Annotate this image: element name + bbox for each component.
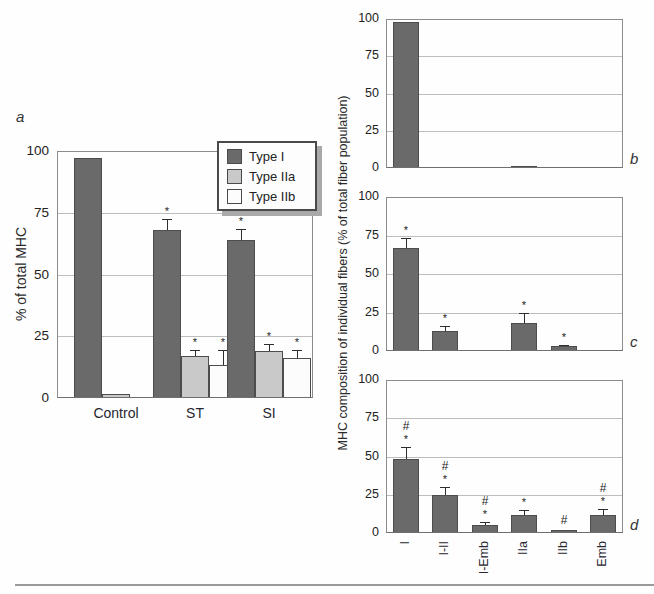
legend-item-type2a: Type IIa [227, 168, 307, 184]
x-label-d-i-ii: I-II [437, 541, 452, 556]
type2b-swatch-icon [227, 189, 242, 204]
error-bar-stem-c-iia-value [524, 313, 525, 323]
error-bar-stem-a-si-type-iib [297, 350, 298, 358]
sig-asterisk-d-emb-value: * [599, 496, 607, 507]
y-tick-label-b-100: 100 [333, 11, 379, 25]
y-tick-label-d-0: 0 [333, 525, 379, 539]
y-tick-label-b-0: 0 [333, 160, 379, 174]
bar-c-i-value [393, 248, 419, 351]
bar-d-i-ii-value [432, 495, 458, 533]
panel-letter-c: c [630, 333, 638, 350]
error-bar-stem-a-si-type-iia [269, 344, 270, 351]
bar-d-i-emb-value [472, 525, 498, 533]
error-bar-cap-a-st-type-iia [190, 350, 200, 351]
sig-hash-d-i-ii-value: # [439, 460, 451, 472]
gridline-d-75 [386, 418, 623, 419]
error-bar-cap-d-i-value [401, 447, 411, 448]
legend-label-type2b: Type IIb [249, 189, 295, 204]
error-bar-stem-d-i-value [406, 447, 407, 459]
error-bar-stem-d-i-ii-value [445, 487, 446, 495]
y-tick-label-d-50: 50 [333, 449, 379, 463]
x-label-d-emb: Emb [595, 541, 610, 567]
y-tick-label-a-50: 50 [3, 267, 49, 282]
y-tick-label-a-75: 75 [3, 205, 49, 220]
bar-c-iib-value [551, 346, 577, 351]
sig-hash-d-i-emb-value: # [479, 495, 491, 507]
bar-c-iia-value [511, 323, 537, 351]
legend: Type I Type IIa Type IIb [217, 141, 317, 211]
legend-item-type2b: Type IIb [227, 188, 307, 204]
bar-d-i-value [393, 459, 419, 533]
bar-a-control-type-i [74, 158, 102, 398]
bar-a-st-type-i [153, 230, 181, 398]
legend-item-type1: Type I [227, 148, 307, 164]
x-label-d-i: I [398, 541, 413, 544]
gridline-d-25 [386, 495, 623, 496]
sig-asterisk-d-i-value: * [402, 434, 410, 445]
y-tick-label-b-75: 75 [333, 48, 379, 62]
y-tick-label-d-75: 75 [333, 410, 379, 424]
y-tick-label-c-50: 50 [333, 266, 379, 280]
sig-asterisk-d-iia-value: * [520, 497, 528, 508]
y-tick-label-a-25: 25 [3, 328, 49, 343]
error-bar-cap-d-i-emb-value [480, 522, 490, 523]
sig-asterisk-a-si-type-iia: * [265, 331, 273, 342]
sig-hash-d-emb-value: # [597, 482, 609, 494]
y-tick-label-c-25: 25 [333, 305, 379, 319]
bottom-divider-rule [15, 584, 654, 586]
y-tick-label-d-100: 100 [333, 372, 379, 386]
bar-c-i-ii-value [432, 331, 458, 351]
y-tick-label-c-100: 100 [333, 189, 379, 203]
sig-asterisk-c-iib-value: * [560, 332, 568, 343]
type2a-swatch-icon [227, 169, 242, 184]
panel-letter-b: b [630, 150, 638, 167]
x-label-d-iia: IIa [516, 541, 531, 555]
x-label-a-control: Control [71, 405, 161, 421]
error-bar-cap-a-si-type-iia [264, 344, 274, 345]
figure: a b c d % of total MHC MHC composition o… [0, 0, 654, 594]
bar-b-iia-value [511, 166, 537, 168]
sig-asterisk-a-st-type-iia: * [191, 337, 199, 348]
sig-asterisk-c-i-ii-value: * [441, 313, 449, 324]
x-label-d-i-emb: I-Emb [477, 541, 492, 574]
bar-a-control-type-iia [102, 394, 130, 398]
error-bar-stem-a-st-type-iib [223, 350, 224, 365]
sig-asterisk-a-si-type-i: * [237, 216, 245, 227]
error-bar-cap-d-iia-value [519, 510, 529, 511]
sig-asterisk-c-iia-value: * [520, 300, 528, 311]
error-bar-stem-a-st-type-i [167, 219, 168, 230]
error-bar-cap-c-iib-value [559, 345, 569, 346]
panel-letter-d: d [630, 516, 638, 533]
legend-label-type1: Type I [249, 149, 284, 164]
sig-asterisk-a-st-type-iib: * [219, 337, 227, 348]
error-bar-cap-d-emb-value [598, 509, 608, 510]
bar-a-si-type-iia [255, 351, 283, 398]
type1-swatch-icon [227, 149, 242, 164]
gridline-c-25 [386, 313, 623, 314]
bar-a-st-type-iia [181, 356, 209, 398]
y-tick-label-c-75: 75 [333, 228, 379, 242]
bar-a-si-type-iib [283, 358, 311, 398]
sig-hash-d-iib-value: # [558, 514, 570, 526]
error-bar-cap-c-i-value [401, 238, 411, 239]
sig-asterisk-a-si-type-iib: * [293, 337, 301, 348]
bar-b-i-value [393, 22, 419, 168]
legend-label-type2a: Type IIa [249, 169, 295, 184]
error-bar-cap-a-si-type-i [236, 229, 246, 230]
gridline-d-50 [386, 457, 623, 458]
error-bar-cap-d-i-ii-value [440, 487, 450, 488]
y-tick-label-a-100: 100 [3, 143, 49, 158]
bar-d-iia-value [511, 515, 537, 533]
y-tick-label-d-25: 25 [333, 487, 379, 501]
sig-asterisk-d-i-emb-value: * [481, 509, 489, 520]
sig-asterisk-a-st-type-i: * [163, 206, 171, 217]
bar-d-iib-value [551, 530, 577, 533]
error-bar-cap-a-st-type-i [162, 219, 172, 220]
gridline-b-25 [386, 131, 623, 132]
sig-asterisk-c-i-value: * [402, 225, 410, 236]
bar-a-si-type-i [227, 240, 255, 398]
gridline-b-75 [386, 56, 623, 57]
error-bar-stem-c-i-value [406, 238, 407, 248]
y-tick-label-c-0: 0 [333, 343, 379, 357]
gridline-c-50 [386, 274, 623, 275]
